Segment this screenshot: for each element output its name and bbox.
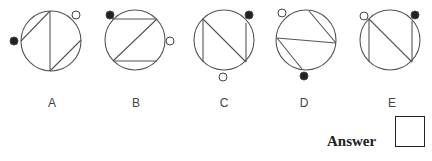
chord-line — [309, 11, 336, 43]
chord-line — [203, 19, 246, 62]
black-dot-icon — [245, 11, 253, 19]
option-d[interactable] — [276, 9, 336, 80]
option-label-e: E — [388, 96, 396, 110]
black-dot-icon — [106, 11, 114, 19]
black-dot-icon — [10, 37, 18, 45]
chord-line — [277, 38, 302, 69]
answer-box[interactable] — [395, 116, 425, 147]
chord-line — [50, 40, 81, 71]
option-label-c: C — [220, 96, 229, 110]
option-c[interactable] — [194, 10, 254, 81]
white-dot-icon — [278, 9, 286, 17]
chord-line — [369, 19, 412, 62]
white-dot-icon — [360, 12, 368, 20]
black-dot-icon — [300, 72, 308, 80]
option-a[interactable] — [10, 11, 81, 71]
answer-label: Answer — [327, 133, 376, 150]
white-dot-icon — [219, 73, 227, 81]
circle-shape — [21, 11, 81, 71]
chord-line — [113, 19, 157, 61]
chord-line — [277, 38, 336, 43]
option-b[interactable] — [105, 10, 174, 70]
option-e[interactable] — [360, 10, 420, 70]
option-label-a: A — [48, 96, 56, 110]
option-label-d: D — [300, 96, 309, 110]
white-dot-icon — [166, 37, 174, 45]
black-dot-icon — [411, 11, 419, 19]
option-label-b: B — [132, 96, 140, 110]
white-dot-icon — [72, 11, 80, 19]
